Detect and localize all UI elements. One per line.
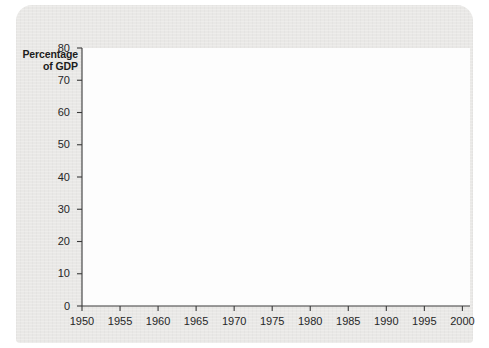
- x-tick-label: 1955: [100, 316, 140, 327]
- x-tick-label: 1990: [366, 316, 406, 327]
- y-tick-label: 70: [42, 75, 70, 86]
- y-tick-label: 40: [42, 172, 70, 183]
- x-tick-label: 1995: [404, 316, 444, 327]
- y-tick-label: 60: [42, 107, 70, 118]
- x-tick-label: 2000: [442, 316, 482, 327]
- y-tick-label: 20: [42, 236, 70, 247]
- x-tick-label: 1965: [176, 316, 216, 327]
- x-tick-label: 1960: [138, 316, 178, 327]
- chart-svg: [0, 0, 489, 348]
- x-tick-label: 1950: [62, 316, 102, 327]
- axes: [77, 48, 470, 311]
- chart-figure: Percentage of GDP 01020304050607080 1950…: [0, 0, 489, 348]
- y-tick-label: 50: [42, 139, 70, 150]
- x-tick-label: 1985: [328, 316, 368, 327]
- y-tick-label: 30: [42, 204, 70, 215]
- x-tick-label: 1970: [214, 316, 254, 327]
- y-tick-label: 0: [42, 301, 70, 312]
- y-tick-label: 80: [42, 43, 70, 54]
- x-tick-label: 1980: [290, 316, 330, 327]
- x-tick-label: 1975: [252, 316, 292, 327]
- y-tick-label: 10: [42, 268, 70, 279]
